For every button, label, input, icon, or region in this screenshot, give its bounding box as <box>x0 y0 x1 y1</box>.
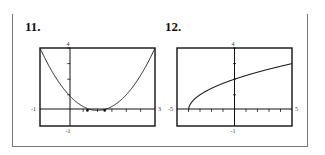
graph-11-frame <box>40 48 155 126</box>
graph-11-ticks <box>67 48 140 112</box>
graph-11-xmax-label: 3 <box>158 106 161 112</box>
graph-12-ymax-label: 4 <box>232 41 235 47</box>
graph-11-curve <box>40 48 155 110</box>
graph-12: 4 -1 -5 5 <box>168 41 298 134</box>
graph-11-ymax-label: 4 <box>67 41 70 47</box>
graph-12-curve <box>189 64 293 111</box>
graph-11-ymin-label: -1 <box>66 128 71 134</box>
graph-11: 4 -1 -1 3 <box>31 41 161 134</box>
graphs-canvas: 4 -1 -1 3 4 -1 -5 5 <box>0 0 325 155</box>
graph-12-xmax-label: 5 <box>295 106 298 112</box>
graph-12-xmin-label: -5 <box>168 106 173 112</box>
graph-11-xmin-label: -1 <box>31 106 36 112</box>
graph-12-ymin-label: -1 <box>231 128 236 134</box>
